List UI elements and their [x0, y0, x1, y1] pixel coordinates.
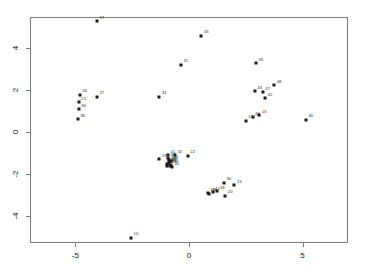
- x-tick-mark: [189, 243, 190, 247]
- y-tick-label: 0: [11, 125, 20, 139]
- x-tick-label: -5: [72, 251, 79, 260]
- data-point-label: 21: [81, 97, 86, 101]
- data-point: [200, 34, 203, 37]
- data-point-label: 20: [82, 89, 87, 93]
- y-tick-mark: [26, 174, 30, 175]
- data-point: [158, 95, 161, 98]
- data-point: [180, 63, 183, 66]
- data-point-label: 39: [171, 153, 176, 157]
- x-tick-label: 0: [187, 251, 191, 260]
- data-point: [96, 95, 99, 98]
- data-point-label: 44: [255, 112, 260, 116]
- data-point: [253, 90, 256, 93]
- data-point-label: 46: [308, 114, 313, 118]
- data-point: [77, 101, 80, 104]
- data-point: [165, 164, 168, 167]
- x-tick-mark: [75, 243, 76, 247]
- data-point: [77, 108, 80, 111]
- y-tick-label: -4: [11, 209, 20, 223]
- data-point-label: 40: [174, 162, 179, 166]
- data-point-label: 47: [265, 87, 270, 91]
- x-tick-label: 5: [300, 251, 304, 260]
- data-point-label: 10: [134, 232, 139, 236]
- y-tick-label: 2: [11, 83, 20, 97]
- data-point-label: 45: [259, 58, 264, 62]
- data-point-label: 16: [212, 188, 217, 192]
- data-point-label: 32: [177, 150, 182, 154]
- data-point: [273, 84, 276, 87]
- data-point-label: 43: [257, 86, 262, 90]
- data-point: [304, 118, 307, 121]
- data-point: [170, 166, 173, 169]
- data-point: [158, 158, 161, 161]
- data-point: [186, 154, 189, 157]
- data-point-label: 20: [228, 190, 233, 194]
- y-tick-label: 4: [11, 41, 20, 55]
- data-point-label: 22: [190, 150, 195, 154]
- scatter-plot: -505-4-2024 1733114548434742202721313638…: [0, 0, 366, 273]
- y-tick-mark: [26, 216, 30, 217]
- data-point: [223, 181, 226, 184]
- data-point: [130, 236, 133, 239]
- data-point-label: 15: [262, 110, 267, 114]
- data-point: [255, 62, 258, 65]
- data-point: [167, 157, 170, 160]
- data-point-label: 17: [100, 16, 105, 20]
- data-point-label: 36: [81, 104, 86, 108]
- x-tick-mark: [303, 243, 304, 247]
- data-point: [168, 162, 171, 165]
- data-point: [244, 119, 247, 122]
- data-point: [76, 118, 79, 121]
- plot-frame: [30, 17, 348, 243]
- data-point-label: 42: [268, 93, 273, 97]
- data-point-label: 14: [248, 115, 253, 119]
- data-point: [208, 192, 211, 195]
- data-point: [261, 91, 264, 94]
- data-point-label: 48: [277, 80, 282, 84]
- data-point-label: 11: [184, 59, 188, 63]
- data-point-label: 33: [204, 30, 209, 34]
- data-point: [233, 184, 236, 187]
- data-point: [224, 194, 227, 197]
- data-point-label: 27: [100, 91, 105, 95]
- y-tick-mark: [26, 90, 30, 91]
- data-point-label: 38: [80, 114, 85, 118]
- data-point-label: 18: [220, 186, 225, 190]
- data-point-label: 31: [162, 91, 167, 95]
- data-point-label: 30: [227, 177, 232, 181]
- y-tick-mark: [26, 48, 30, 49]
- y-tick-mark: [26, 132, 30, 133]
- data-point: [264, 97, 267, 100]
- data-point: [96, 20, 99, 23]
- y-tick-label: -2: [11, 167, 20, 181]
- data-point-label: 13: [237, 180, 242, 184]
